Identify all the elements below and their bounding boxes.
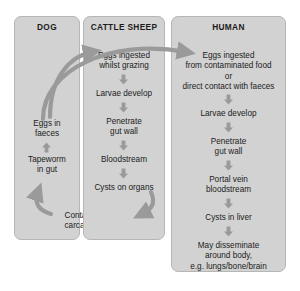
arrow-tapeworm-to-eggs: [41, 142, 52, 153]
node-cattle-cysts-on-organs: Cysts on organs: [83, 183, 165, 193]
node-human-penetrate-gut-wall: Penetrate gut wall: [171, 137, 286, 158]
arrow-human-1: [223, 94, 234, 105]
node-dog-tapeworm-in-gut: Tapeworm in gut: [14, 155, 80, 176]
arrow-human-3: [223, 160, 234, 171]
node-dog-eggs-in-faeces: Eggs in faeces: [14, 119, 80, 140]
arrow-cattle-3: [118, 140, 129, 151]
node-human-larvae-develop: Larvae develop: [171, 109, 286, 119]
node-cattle-larvae-develop: Larvae develop: [83, 89, 165, 99]
node-human-may-disseminate: May disseminate around body, e.g. lungs/…: [171, 241, 286, 272]
node-cattle-penetrate-gut-wall: Penetrate gut wall: [83, 117, 165, 138]
arrow-cattle-4: [118, 168, 129, 179]
node-human-eggs-ingested: Eggs ingested from contaminated food or …: [171, 51, 286, 93]
column-title-dog: DOG: [15, 22, 79, 32]
node-human-cysts-in-liver: Cysts in liver: [171, 213, 286, 223]
node-cattle-eggs-ingested: Eggs ingested whilst grazing: [83, 51, 165, 72]
node-human-portal-vein-bloodstream: Portal vein bloodstream: [171, 175, 286, 196]
arrow-human-2: [223, 122, 234, 133]
column-title-cattle-sheep: CATTLE SHEEP: [84, 22, 164, 32]
arrow-human-5: [223, 226, 234, 237]
diagram-canvas: DOG Eggs in faeces Tapeworm in gut Conta…: [0, 0, 300, 291]
node-cattle-bloodstream: Bloodstream: [83, 155, 165, 165]
column-title-human: HUMAN: [172, 22, 285, 32]
arrow-cattle-2: [118, 102, 129, 113]
arrow-cattle-1: [118, 74, 129, 85]
arrow-human-4: [223, 198, 234, 209]
